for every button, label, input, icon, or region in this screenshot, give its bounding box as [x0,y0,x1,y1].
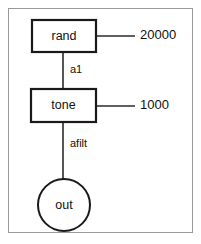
signal-flow-diagram: rand tone out a1 afilt 20000 1000 [0,0,201,244]
param-value-rand-amplitude: 20000 [140,27,176,42]
node-tone-label: tone [51,98,75,112]
node-rand-label: rand [51,29,76,43]
edge-label-afilt: afilt [70,137,87,149]
node-out-label: out [55,198,73,212]
edge-label-a1: a1 [70,63,82,75]
param-value-tone-cutoff: 1000 [140,97,169,112]
diagram-canvas: rand tone out a1 afilt 20000 1000 [0,0,201,244]
